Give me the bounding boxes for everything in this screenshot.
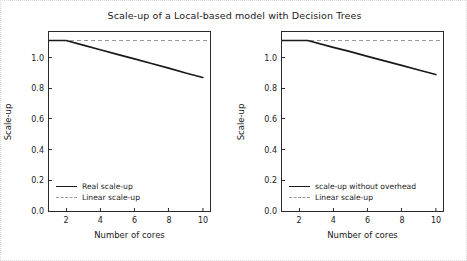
- ytick-right-1: 0.2: [264, 176, 282, 185]
- axes-right: 0.0 0.2 0.4 0.6 0.8 1.0 Scale-up 2 4 6 8…: [281, 31, 444, 212]
- y-axis-label-right: Scale-up: [236, 103, 246, 140]
- legend-label-linear-scale-up: Linear scale-up: [315, 193, 373, 202]
- ytick-left-0: 0.0: [31, 207, 49, 216]
- xtick-right-0: 2: [297, 211, 302, 225]
- legend-left: Real scale-up Linear scale-up: [56, 182, 140, 202]
- xtick-right-3: 8: [399, 211, 404, 225]
- dashed-line-icon: [289, 197, 310, 198]
- legend-right: scale-up without overhead Linear scale-u…: [289, 182, 416, 202]
- legend-item-linear-scale-up: Linear scale-up: [289, 193, 416, 202]
- ytick-left-2: 0.4: [31, 145, 49, 154]
- ytick-right-5: 1.0: [264, 53, 282, 62]
- subplot-left: 0.0 0.2 0.4 0.6 0.8 1.0 Scale-up 2 4 6 8…: [1, 1, 234, 261]
- legend-label-linear-scale-up: Linear scale-up: [82, 193, 140, 202]
- scale-up-without-overhead-line: [282, 41, 436, 75]
- legend-item-scale-up-without-overhead: scale-up without overhead: [289, 182, 416, 191]
- xtick-left-3: 8: [166, 211, 171, 225]
- xtick-right-2: 6: [365, 211, 370, 225]
- real-scale-up-line: [49, 41, 203, 78]
- ytick-right-4: 0.8: [264, 84, 282, 93]
- legend-label-scale-up-without-overhead: scale-up without overhead: [315, 182, 416, 191]
- ytick-right-0: 0.0: [264, 207, 282, 216]
- x-axis-label-right: Number of cores: [327, 230, 398, 240]
- y-axis-label-left: Scale-up: [3, 103, 13, 140]
- solid-line-icon: [56, 186, 77, 187]
- xtick-left-4: 10: [198, 211, 208, 225]
- ytick-left-3: 0.6: [31, 114, 49, 123]
- xtick-right-4: 10: [431, 211, 441, 225]
- legend-label-real-scale-up: Real scale-up: [82, 182, 133, 191]
- ytick-right-2: 0.4: [264, 145, 282, 154]
- subplot-right: 0.0 0.2 0.4 0.6 0.8 1.0 Scale-up 2 4 6 8…: [234, 1, 467, 261]
- solid-line-icon: [289, 186, 310, 187]
- ytick-left-1: 0.2: [31, 176, 49, 185]
- xtick-left-1: 4: [98, 211, 103, 225]
- figure: Scale-up of a Local-based model with Dec…: [0, 0, 467, 261]
- ytick-left-5: 1.0: [31, 53, 49, 62]
- ytick-left-4: 0.8: [31, 84, 49, 93]
- dashed-line-icon: [56, 197, 77, 198]
- legend-item-linear-scale-up: Linear scale-up: [56, 193, 140, 202]
- xtick-left-0: 2: [64, 211, 69, 225]
- xtick-right-1: 4: [331, 211, 336, 225]
- xtick-left-2: 6: [132, 211, 137, 225]
- legend-item-real-scale-up: Real scale-up: [56, 182, 140, 191]
- ytick-right-3: 0.6: [264, 114, 282, 123]
- axes-left: 0.0 0.2 0.4 0.6 0.8 1.0 Scale-up 2 4 6 8…: [48, 31, 211, 212]
- x-axis-label-left: Number of cores: [94, 230, 165, 240]
